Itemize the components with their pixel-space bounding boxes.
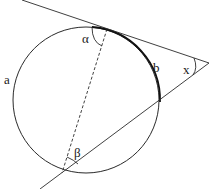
tangent-line xyxy=(22,0,209,63)
dashed-chord xyxy=(62,29,107,173)
circle-angle-diagram: α a b x β xyxy=(0,0,209,189)
label-x: x xyxy=(183,62,190,77)
secant-line xyxy=(40,63,209,189)
label-alpha: α xyxy=(82,31,89,46)
label-b: b xyxy=(153,60,160,75)
circle xyxy=(13,27,159,173)
label-beta: β xyxy=(74,145,81,160)
label-a: a xyxy=(4,72,10,87)
angle-x-arc xyxy=(193,58,196,75)
angle-alpha-arc xyxy=(92,27,102,46)
